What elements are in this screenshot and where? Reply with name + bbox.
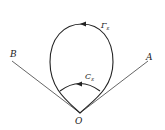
label-gamma-sub: ε: [107, 25, 110, 31]
ray-ob: [12, 61, 80, 113]
arrow-gamma-icon: [80, 22, 86, 27]
ray-oa: [80, 61, 148, 113]
label-c: Cε: [85, 72, 94, 82]
contour-diagram: B A O Γε Cε: [0, 0, 165, 130]
contour-gamma-epsilon: [50, 24, 113, 113]
label-gamma: Γε: [100, 21, 110, 31]
label-c-sub: ε: [91, 76, 94, 82]
arrow-c-icon: [76, 82, 82, 87]
label-a: A: [145, 52, 153, 62]
label-o: O: [75, 116, 83, 126]
label-b: B: [9, 49, 17, 59]
